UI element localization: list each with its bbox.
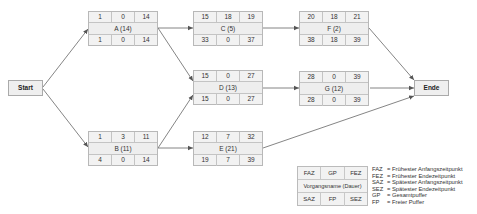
node-d: 15027 D (13) 15027	[193, 70, 263, 105]
node-b: 1311 B (11) 4014	[88, 131, 158, 166]
gp: 0	[217, 71, 240, 81]
fp: 0	[217, 35, 240, 46]
saz: 38	[300, 35, 323, 46]
node-e: 12732 E (21) 19739	[193, 131, 263, 166]
sez: 14	[135, 155, 157, 166]
faz: 12	[194, 132, 217, 142]
fp: 7	[217, 155, 240, 166]
end-node: Ende	[414, 80, 449, 96]
edge-a-d	[158, 28, 193, 81]
start-node: Start	[8, 80, 43, 96]
faz: 15	[194, 71, 217, 81]
gp: 18	[217, 12, 240, 22]
legend-abbr: FEZ	[372, 173, 387, 180]
gp: 0	[323, 72, 346, 82]
sez: 27	[240, 94, 262, 105]
legend-node: FAZGPFEZ Vorgangsname (Dauer) SAZFPSEZ	[297, 166, 368, 206]
saz: 28	[300, 95, 323, 106]
legend-fp: FP	[321, 193, 344, 206]
faz: 1	[89, 12, 112, 22]
fp: 0	[112, 155, 135, 166]
legend-faz: FAZ	[298, 167, 321, 179]
legend-abbr: SEZ	[372, 186, 387, 193]
legend-entry: FP= Freier Puffer	[372, 199, 463, 206]
faz: 28	[300, 72, 323, 82]
sez: 39	[346, 95, 368, 106]
legend-abbr: FP	[372, 199, 387, 206]
legend-name: Vorgangsname (Dauer)	[298, 180, 367, 192]
activity-name: E (21)	[194, 143, 262, 154]
activity-name: C (5)	[194, 23, 262, 34]
legend-sez: SEZ	[345, 193, 367, 206]
fez: 19	[240, 12, 262, 22]
legend-explanations: FAZ= Frühester Anfangszeitpunkt FEZ= Frü…	[372, 166, 463, 206]
legend-saz: SAZ	[298, 193, 321, 206]
fez: 21	[346, 12, 368, 22]
saz: 15	[194, 94, 217, 105]
legend-desc: = Frühester Anfangszeitpunkt	[387, 166, 463, 172]
legend-entry: FAZ= Frühester Anfangszeitpunkt	[372, 166, 463, 173]
sez: 14	[135, 35, 157, 46]
fez: 39	[346, 72, 368, 82]
gp: 3	[112, 132, 135, 142]
legend-desc: = Spätester Endezeitpunkt	[387, 186, 455, 192]
fp: 0	[217, 94, 240, 105]
gp: 18	[323, 12, 346, 22]
legend-entry: GP= Gesamtpuffer	[372, 192, 463, 199]
fez: 32	[240, 132, 262, 142]
faz: 15	[194, 12, 217, 22]
legend-gp: GP	[321, 167, 344, 179]
activity-name: D (13)	[194, 82, 262, 93]
fp: 0	[112, 35, 135, 46]
node-f: 201821 F (2) 381839	[299, 11, 369, 46]
edge-f-ende	[369, 28, 414, 80]
node-a: 1014 A (14) 1014	[88, 11, 158, 46]
gp: 0	[112, 12, 135, 22]
legend-entry: SEZ= Spätester Endezeitpunkt	[372, 186, 463, 193]
saz: 4	[89, 155, 112, 166]
fp: 0	[323, 95, 346, 106]
saz: 33	[194, 35, 217, 46]
node-g: 28039 G (12) 28039	[299, 71, 369, 106]
edge-start-b	[43, 89, 88, 147]
activity-name: F (2)	[300, 23, 368, 34]
activity-name: G (12)	[300, 83, 368, 94]
legend-entry: FEZ= Frühester Endezeitpunkt	[372, 173, 463, 180]
sez: 39	[346, 35, 368, 46]
legend-desc: = Freier Puffer	[387, 199, 424, 205]
legend-abbr: FAZ	[372, 166, 387, 173]
fez: 14	[135, 12, 157, 22]
faz: 1	[89, 132, 112, 142]
fez: 27	[240, 71, 262, 81]
sez: 39	[240, 155, 262, 166]
edge-b-d	[158, 95, 193, 148]
saz: 19	[194, 155, 217, 166]
gp: 7	[217, 132, 240, 142]
legend-desc: = Frühester Endezeitpunkt	[387, 173, 455, 179]
legend-desc: = Gesamtpuffer	[387, 192, 427, 198]
legend-fez: FEZ	[345, 167, 367, 179]
legend-abbr: SAZ	[372, 179, 387, 186]
node-c: 151819 C (5) 33037	[193, 11, 263, 46]
sez: 37	[240, 35, 262, 46]
fez: 11	[135, 132, 157, 142]
activity-name: B (11)	[89, 143, 157, 154]
edge-start-a	[43, 29, 88, 87]
legend-abbr: GP	[372, 192, 387, 199]
legend-desc: = Spätester Anfangszeitpunkt	[387, 179, 463, 185]
faz: 20	[300, 12, 323, 22]
fp: 18	[323, 35, 346, 46]
saz: 1	[89, 35, 112, 46]
activity-name: A (14)	[89, 23, 157, 34]
legend-entry: SAZ= Spätester Anfangszeitpunkt	[372, 179, 463, 186]
